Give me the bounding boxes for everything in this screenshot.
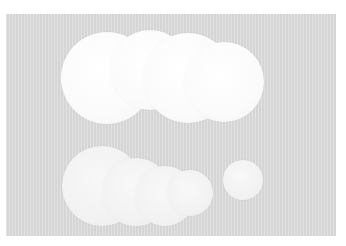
paper-disk (223, 160, 263, 200)
paper-disk (167, 170, 213, 216)
paper-disk (184, 42, 264, 122)
